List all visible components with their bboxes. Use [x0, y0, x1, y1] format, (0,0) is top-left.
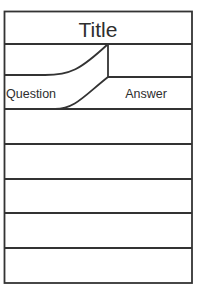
table-grid — [0, 0, 201, 287]
question-upper-curve — [5, 44, 109, 75]
question-lower-curve — [55, 77, 108, 109]
question-label: Question — [6, 88, 56, 101]
card-title: Title — [4, 19, 192, 40]
form-card: Title Question Answer — [0, 0, 201, 287]
answer-label: Answer — [118, 88, 174, 101]
